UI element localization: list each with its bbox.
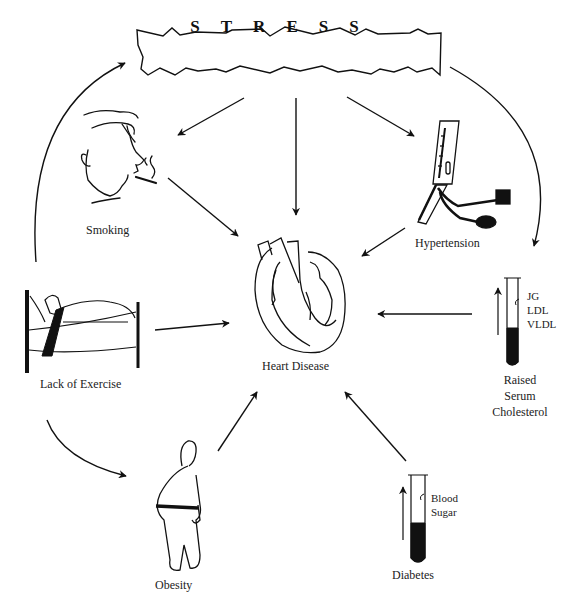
- stress-heart-disease-diagram: [0, 0, 572, 615]
- tube-label-blood: Blood: [431, 491, 458, 505]
- heart-disease-label: Heart Disease: [262, 358, 329, 374]
- arrows: [35, 63, 541, 476]
- cholesterol-test-tube-icon: [498, 278, 521, 365]
- lack-of-exercise-label: Lack of Exercise: [40, 376, 121, 392]
- obese-person-icon: [156, 441, 201, 570]
- hypertension-label: Hypertension: [415, 235, 480, 251]
- tube-label-vldl: VLDL: [527, 317, 556, 331]
- person-in-bed-icon: [27, 290, 138, 373]
- smoking-man-icon: [82, 111, 157, 203]
- stress-label: STRESS: [130, 17, 440, 37]
- arrow-exercise-to-obesity: [47, 420, 126, 476]
- heart-cross-section-icon: [255, 238, 345, 353]
- figure-caption-clipped: [80, 606, 500, 615]
- arrow-smoking-to-heart: [168, 178, 238, 236]
- tube-label-sugar: Sugar: [431, 505, 458, 519]
- arrow-exercise-to-heart: [155, 323, 229, 330]
- obesity-label: Obesity: [155, 577, 192, 593]
- sphygmomanometer-icon: [418, 121, 510, 228]
- blood-sugar-test-tube-icon: [403, 475, 428, 562]
- arrow-stress-to-smoking: [178, 98, 244, 135]
- smoking-label: Smoking: [86, 222, 129, 238]
- arrow-diabetes-to-heart: [345, 392, 406, 461]
- diabetes-label: Diabetes: [392, 567, 434, 583]
- cholesterol-tube-labels: JG LDL VLDL: [527, 289, 556, 331]
- arrow-hypertension-to-heart: [362, 228, 405, 256]
- diabetes-tube-labels: Blood Sugar: [431, 491, 458, 519]
- raised-serum-cholesterol-label: Raised Serum Cholesterol: [480, 372, 560, 420]
- arrow-obesity-to-heart: [218, 392, 257, 451]
- tube-label-jg: JG: [527, 289, 556, 303]
- arrow-stress-to-hypertension: [347, 97, 414, 136]
- tube-label-ldl: LDL: [527, 303, 556, 317]
